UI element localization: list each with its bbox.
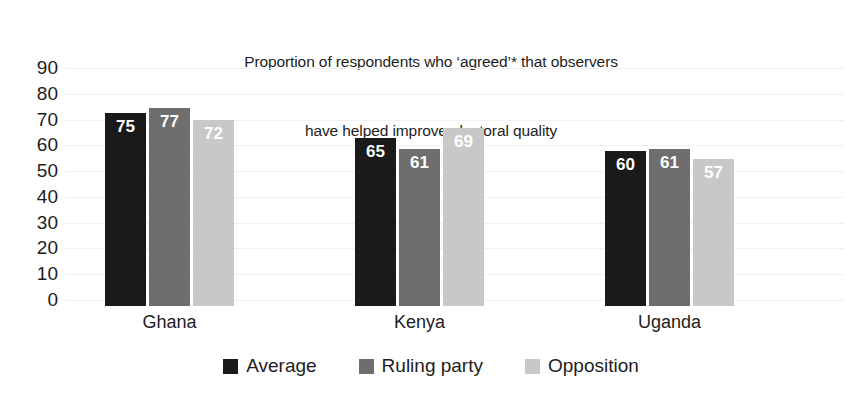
- bar-ghana-average[interactable]: 75: [105, 113, 146, 306]
- bar-value-label: 77: [149, 113, 190, 131]
- x-axis-label-kenya: Kenya: [355, 312, 484, 332]
- y-axis-tick-60: 60: [8, 135, 58, 154]
- legend-item-opposition[interactable]: Opposition: [525, 356, 639, 376]
- legend-swatch-icon: [525, 359, 540, 374]
- bar-uganda-average[interactable]: 60: [605, 151, 646, 306]
- legend-label: Ruling party: [382, 356, 483, 376]
- y-axis-tick-20: 20: [8, 238, 58, 257]
- bar-value-label: 72: [193, 125, 234, 143]
- legend-label: Average: [246, 356, 316, 376]
- bar-kenya-ruling-party[interactable]: 61: [399, 149, 440, 306]
- bar-value-label: 69: [443, 133, 484, 151]
- bar-group-uganda: 606157Uganda: [605, 68, 734, 306]
- bar-ghana-ruling-party[interactable]: 77: [149, 108, 190, 306]
- chart-figure: Proportion of respondents who ‘agreed’* …: [0, 0, 862, 406]
- bar-value-label: 61: [649, 154, 690, 172]
- bar-ghana-opposition[interactable]: 72: [193, 120, 234, 306]
- y-axis-tick-50: 50: [8, 161, 58, 180]
- bar-value-label: 61: [399, 154, 440, 172]
- legend-swatch-icon: [223, 359, 238, 374]
- legend-label: Opposition: [548, 356, 639, 376]
- plot-area: 757772Ghana656169Kenya606157Uganda: [66, 62, 844, 306]
- y-axis-tick-0: 0: [8, 290, 58, 309]
- y-axis-tick-30: 30: [8, 213, 58, 232]
- bar-group-ghana: 757772Ghana: [105, 68, 234, 306]
- x-axis-label-uganda: Uganda: [605, 312, 734, 332]
- y-axis-tick-80: 80: [8, 84, 58, 103]
- x-axis-label-ghana: Ghana: [105, 312, 234, 332]
- legend-item-ruling-party[interactable]: Ruling party: [359, 356, 483, 376]
- bar-kenya-average[interactable]: 65: [355, 138, 396, 306]
- bar-kenya-opposition[interactable]: 69: [443, 128, 484, 306]
- legend-swatch-icon: [359, 359, 374, 374]
- bar-uganda-opposition[interactable]: 57: [693, 159, 734, 306]
- y-axis-tick-40: 40: [8, 187, 58, 206]
- legend-item-average[interactable]: Average: [223, 356, 316, 376]
- y-axis-tick-70: 70: [8, 110, 58, 129]
- y-axis-tick-90: 90: [8, 58, 58, 77]
- y-axis: 9080706050403020100: [0, 0, 58, 320]
- y-axis-tick-10: 10: [8, 264, 58, 283]
- bar-value-label: 75: [105, 118, 146, 136]
- bar-value-label: 60: [605, 156, 646, 174]
- bar-value-label: 57: [693, 164, 734, 182]
- chart-legend: AverageRuling partyOpposition: [0, 356, 862, 376]
- bar-value-label: 65: [355, 143, 396, 161]
- bar-group-kenya: 656169Kenya: [355, 68, 484, 306]
- bar-uganda-ruling-party[interactable]: 61: [649, 149, 690, 306]
